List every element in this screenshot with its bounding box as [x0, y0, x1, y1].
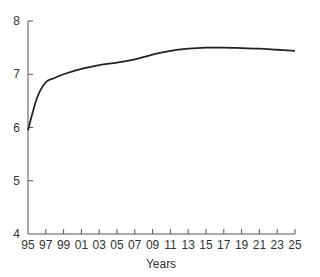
y-tick-label: 7 [13, 67, 20, 81]
x-tick-label: 09 [146, 238, 160, 252]
y-tick-label: 4 [13, 227, 20, 241]
x-tick-label: 05 [110, 238, 124, 252]
axes: 4567895979901030507091113151719212325 [13, 14, 302, 252]
x-tick-label: 99 [57, 238, 71, 252]
x-tick-label: 17 [217, 238, 231, 252]
x-tick-label: 11 [164, 238, 177, 252]
y-tick-label: 8 [13, 14, 20, 28]
x-tick-label: 97 [39, 238, 53, 252]
data-line [28, 48, 295, 131]
x-axis-title: Years [146, 257, 176, 271]
x-tick-label: 07 [128, 238, 142, 252]
x-tick-label: 21 [253, 238, 267, 252]
y-tick-label: 6 [13, 121, 20, 135]
x-tick-label: 25 [288, 238, 302, 252]
x-tick-label: 23 [271, 238, 285, 252]
x-tick-label: 95 [21, 238, 35, 252]
x-tick-label: 19 [235, 238, 249, 252]
x-tick-label: 15 [199, 238, 213, 252]
x-tick-label: 13 [182, 238, 196, 252]
x-tick-label: 03 [93, 238, 107, 252]
y-tick-label: 5 [13, 174, 20, 188]
x-tick-label: 01 [75, 238, 89, 252]
line-chart: 4567895979901030507091113151719212325 Ye… [0, 0, 320, 277]
plot-area [28, 48, 295, 131]
